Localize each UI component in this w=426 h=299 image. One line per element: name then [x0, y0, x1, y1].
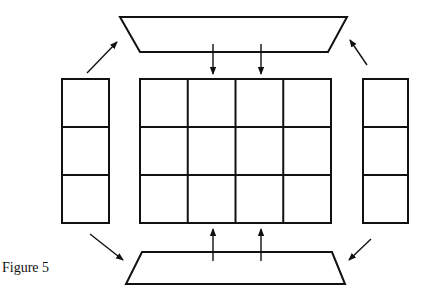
arrows-layer: [87, 40, 371, 261]
right-column: [363, 79, 408, 223]
center-grid: [140, 79, 331, 223]
arrow-right-column-to-bottom: [349, 239, 371, 260]
left-column-frame: [62, 79, 109, 223]
diagram-canvas: [0, 0, 426, 299]
arrow-left-column-to-top: [87, 42, 117, 73]
arrow-left-column-to-bottom: [90, 234, 123, 260]
left-column: [62, 79, 109, 223]
bottom-trapezoid: [126, 252, 345, 284]
shapes-layer: [62, 17, 408, 284]
figure-caption: Figure 5: [2, 260, 49, 276]
right-column-frame: [363, 79, 408, 223]
top-trapezoid: [120, 17, 347, 52]
arrow-right-column-to-top: [350, 40, 367, 65]
